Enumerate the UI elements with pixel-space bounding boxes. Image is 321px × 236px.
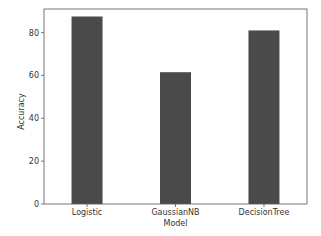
y-axis-ticks: 020406080: [29, 29, 44, 209]
y-tick-label: 0: [34, 200, 39, 209]
x-axis-label: Model: [163, 219, 187, 228]
x-axis-ticks: LogisticGaussianNBDecisionTree: [72, 204, 290, 217]
bar-chart: 020406080 LogisticGaussianNBDecisionTree…: [0, 0, 321, 236]
y-tick-label: 40: [29, 114, 39, 123]
y-axis-label: Accuracy: [17, 93, 26, 130]
bar-logistic: [72, 17, 103, 205]
bar-gaussiannb: [160, 72, 191, 204]
x-tick-label: DecisionTree: [239, 208, 290, 217]
x-tick-label: GaussianNB: [151, 208, 199, 217]
y-tick-label: 20: [29, 157, 39, 166]
bar-decisiontree: [248, 30, 279, 204]
y-tick-label: 80: [29, 29, 39, 38]
x-tick-label: Logistic: [72, 208, 102, 217]
y-tick-label: 60: [29, 71, 39, 80]
bars-group: [72, 17, 280, 205]
